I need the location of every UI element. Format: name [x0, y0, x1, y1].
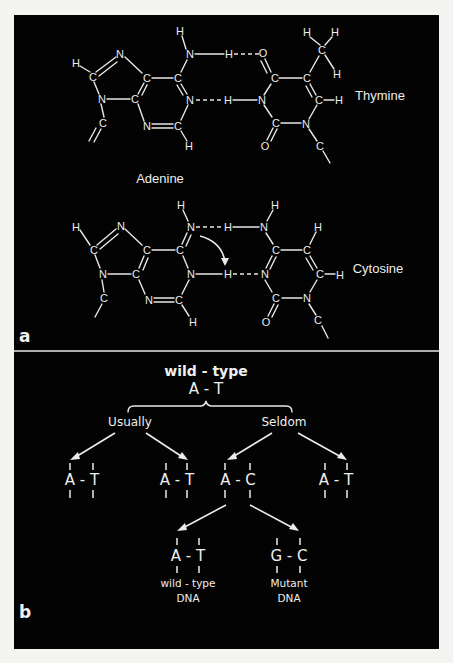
svg-text:Mutant: Mutant	[270, 577, 307, 589]
svg-text:H: H	[185, 140, 193, 152]
svg-text:H: H	[331, 26, 339, 38]
svg-text:H: H	[333, 68, 341, 80]
root-title: wild - type	[164, 363, 247, 379]
svg-text:C: C	[315, 94, 323, 106]
outcome-mutant: G - C Mutant DNA	[270, 538, 307, 604]
branch-seldom-label: Seldom	[262, 415, 307, 429]
svg-text:H: H	[72, 221, 80, 233]
svg-text:O: O	[261, 140, 270, 152]
branch-usually-label: Usually	[108, 415, 152, 429]
svg-text:C: C	[143, 72, 151, 84]
svg-text:A - T: A - T	[171, 547, 206, 565]
pair-seldom-2: A - T	[319, 463, 354, 498]
svg-text:N: N	[187, 268, 195, 280]
svg-text:N: N	[187, 221, 195, 233]
svg-text:C: C	[303, 244, 311, 256]
svg-text:C: C	[272, 117, 280, 129]
outcome-wild-type: A - T wild - type DNA	[160, 538, 215, 604]
svg-text:N: N	[143, 120, 151, 132]
thymine-label: Thymine	[355, 88, 405, 103]
mutation-tree: wild - type A - T Usually Seldom A - T A…	[65, 363, 354, 604]
svg-text:C: C	[271, 72, 279, 84]
svg-text:N: N	[186, 94, 194, 106]
pair-seldom-mispair: A - C	[220, 463, 256, 498]
brace	[128, 401, 292, 412]
svg-text:H: H	[335, 94, 343, 106]
dna-base-pairing-figure: H C N C C N H N C N C N C H H H O C C C …	[14, 15, 439, 649]
svg-text:C: C	[176, 244, 184, 256]
svg-text:A - T: A - T	[319, 471, 354, 489]
figure-canvas: H C N C C N H N C N C N C H H H O C C C …	[14, 15, 439, 649]
svg-text:C: C	[175, 294, 183, 306]
svg-text:DNA: DNA	[176, 592, 200, 604]
svg-text:H: H	[314, 221, 322, 233]
svg-text:N: N	[258, 94, 266, 106]
svg-text:C: C	[90, 244, 98, 256]
svg-text:C: C	[303, 72, 311, 84]
svg-text:N: N	[98, 93, 106, 105]
svg-text:H: H	[176, 25, 184, 37]
svg-text:N: N	[99, 268, 107, 280]
svg-text:H: H	[336, 269, 344, 281]
svg-text:C: C	[99, 117, 107, 129]
svg-text:C: C	[89, 71, 97, 83]
svg-text:H: H	[224, 268, 232, 280]
panel-b-label: b	[19, 602, 31, 622]
svg-text:C: C	[316, 268, 324, 280]
arrow-icon	[177, 505, 299, 531]
svg-text:O: O	[262, 316, 271, 328]
svg-text:A - C: A - C	[220, 471, 256, 489]
svg-text:N: N	[302, 118, 310, 130]
svg-text:N: N	[117, 220, 125, 232]
svg-text:C: C	[174, 120, 182, 132]
svg-text:C: C	[100, 292, 108, 304]
svg-text:H: H	[303, 26, 311, 38]
adenine-label: Adenine	[136, 171, 184, 186]
pair-usually-2: A - T	[160, 463, 195, 498]
svg-text:N: N	[145, 294, 153, 306]
svg-text:G - C: G - C	[270, 547, 307, 565]
svg-text:DNA: DNA	[277, 592, 301, 604]
svg-text:H: H	[224, 94, 232, 106]
svg-text:C: C	[143, 244, 151, 256]
svg-text:H: H	[189, 316, 197, 328]
svg-text:N: N	[116, 48, 124, 60]
svg-text:N: N	[303, 292, 311, 304]
svg-text:C: C	[272, 292, 280, 304]
svg-text:C: C	[174, 72, 182, 84]
svg-text:H: H	[72, 57, 80, 69]
svg-text:C: C	[132, 268, 140, 280]
svg-text:N: N	[260, 221, 268, 233]
root-pair: A - T	[189, 380, 224, 398]
adenine-cytosine-pair: H C N C C N H N C N C N C H H H H N C C …	[72, 199, 403, 338]
svg-text:wild - type: wild - type	[160, 577, 215, 589]
svg-text:C: C	[314, 314, 322, 326]
arrow-icon	[70, 433, 347, 460]
svg-text:C: C	[318, 44, 326, 56]
svg-text:N: N	[186, 48, 194, 60]
svg-text:C: C	[316, 140, 324, 152]
svg-text:N: N	[261, 268, 269, 280]
svg-text:O: O	[259, 47, 268, 59]
cytosine-label: Cytosine	[353, 261, 404, 276]
pair-usually-1: A - T	[65, 463, 100, 498]
svg-text:C: C	[272, 244, 280, 256]
svg-text:H: H	[177, 199, 185, 211]
svg-text:H: H	[225, 48, 233, 60]
svg-text:A - T: A - T	[160, 471, 195, 489]
svg-text:A - T: A - T	[65, 471, 100, 489]
svg-text:H: H	[271, 199, 279, 211]
adenine-thymine-pair: H C N C C N H N C N C N C H H H O C C C …	[72, 25, 405, 186]
panel-a-label: a	[19, 326, 30, 346]
svg-text:C: C	[131, 93, 139, 105]
svg-text:H: H	[224, 221, 232, 233]
